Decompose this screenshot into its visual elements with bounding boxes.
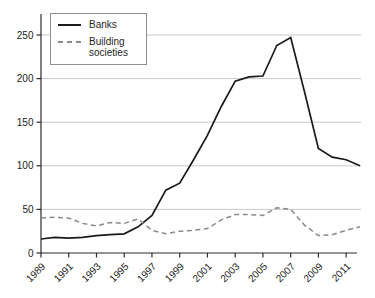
x-tick-label: 2001 <box>190 260 214 284</box>
x-tick-label: 2011 <box>330 260 353 283</box>
x-tick-label: 1991 <box>52 260 76 284</box>
building-societies-dashed-line-swatch-icon <box>58 41 81 43</box>
line-chart: 0501001502002501989199119931995199719992… <box>0 0 375 298</box>
x-tick-label: 1999 <box>163 260 187 284</box>
x-tick-label: 2005 <box>246 260 270 284</box>
x-axis-tick-labels: 1989199119931995199719992001200320052007… <box>24 260 353 284</box>
y-tick-label: 0 <box>28 248 34 259</box>
banks-solid-line-swatch-icon <box>58 24 81 26</box>
y-axis-tick-labels: 050100150200250 <box>17 30 34 259</box>
legend: Banks Building societies <box>50 13 147 65</box>
legend-item-banks: Banks <box>58 19 137 31</box>
x-tick-label: 1993 <box>79 260 103 284</box>
series-line-banks <box>41 38 360 239</box>
y-tick-label: 250 <box>17 30 34 41</box>
y-tick-label: 200 <box>17 73 34 84</box>
legend-label-banks: Banks <box>89 19 117 31</box>
x-tick-label: 1989 <box>24 260 48 284</box>
x-tick-label: 2007 <box>274 260 298 284</box>
x-tick-label: 1997 <box>135 260 159 284</box>
legend-label-building-societies: Building societies <box>89 36 137 59</box>
legend-item-building-societies: Building societies <box>58 36 137 59</box>
y-tick-label: 100 <box>17 160 34 171</box>
x-tick-label: 2003 <box>218 260 242 284</box>
series-line-building-societies <box>41 208 360 236</box>
y-tick-label: 150 <box>17 117 34 128</box>
y-tick-label: 50 <box>22 204 34 215</box>
x-tick-label: 2009 <box>301 260 325 284</box>
x-tick-label: 1995 <box>107 260 131 284</box>
